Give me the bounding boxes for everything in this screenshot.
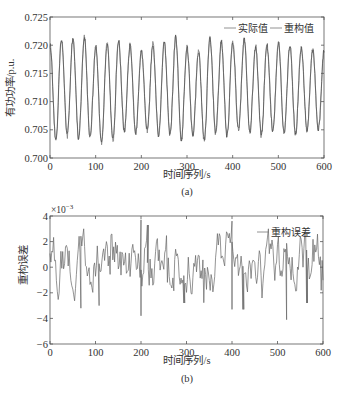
panel-b-xlabel: 时间序列/s [163,354,210,366]
x-tick-label: 400 [225,161,241,172]
legend-label-reconstructed: 重构值 [284,22,314,34]
x-tick-label: 600 [315,347,331,358]
y-tick-label: −4 [37,313,49,324]
y-tick-label: 0.720 [24,40,48,51]
y-tick-label: 4 [43,211,49,222]
legend-label-actual: 实际值 [238,22,268,34]
y-tick-label: 0.725 [24,12,48,23]
y-tick-label: 0.700 [24,153,48,164]
y-tick-label: 0 [43,262,48,273]
panel-a-ticks: 01002003004005006000.7000.7050.7100.7150… [24,12,332,173]
x-tick-label: 100 [88,161,104,172]
legend-label-error: 重构误差 [271,226,311,238]
y-tick-label: −2 [37,287,48,298]
x-tick-label: 200 [133,161,149,172]
panel-a-caption: (a) [181,186,193,198]
x-tick-label: 0 [47,347,52,358]
x-tick-label: 500 [270,161,286,172]
y-tick-label: 0.715 [24,68,48,79]
x-tick-label: 200 [133,347,149,358]
x-tick-label: 400 [224,347,240,358]
panel-a-plot-area [50,35,324,145]
panel-a: 01002003004005006000.7000.7050.7100.7150… [4,12,332,199]
panel-b: 0100200300400500600−6−4−2024 重构误差 ×10−3 … [17,203,331,385]
x-tick-label: 600 [316,161,332,172]
panel-a-legend: 实际值 重构值 [224,22,314,34]
x-tick-label: 100 [88,347,104,358]
panel-b-legend: 重构误差 [257,226,311,238]
panel-a-ylabel: 有功功率/p.u. [4,59,16,118]
x-tick-label: 0 [47,161,52,172]
y-tick-label: 2 [43,236,48,247]
y-tick-label: 0.710 [24,96,48,107]
panel-a-axes-box [50,17,324,158]
panel-b-caption: (b) [181,373,194,385]
y-tick-label: −6 [37,339,48,350]
panel-a-xlabel: 时间序列/s [163,168,210,180]
y-tick-label: 0.705 [24,124,48,135]
panel-b-y-exponent: ×10−3 [51,203,74,215]
x-tick-label: 500 [270,347,286,358]
figure: 01002003004005006000.7000.7050.7100.7150… [0,0,337,398]
panel-b-ylabel: 重构误差 [17,245,29,285]
